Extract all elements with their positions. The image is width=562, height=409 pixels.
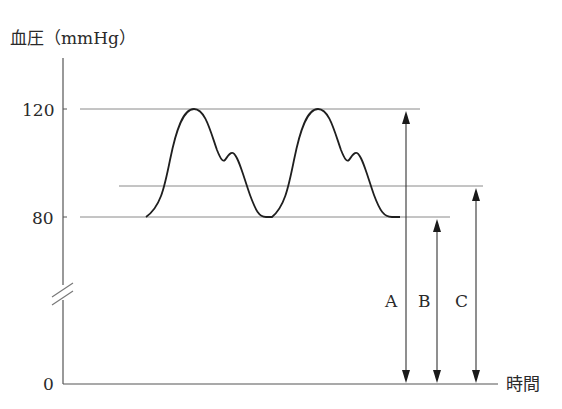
y-tick-80: 80 — [32, 208, 54, 228]
arrow-a — [402, 111, 410, 383]
label-c: C — [455, 291, 468, 311]
label-a: A — [384, 291, 398, 311]
arrow-b — [433, 219, 441, 383]
y-axis-title: 血圧（mmHg） — [10, 28, 136, 48]
y-axis — [63, 58, 67, 384]
y-tick-0: 0 — [43, 374, 54, 394]
label-b: B — [418, 291, 431, 311]
y-tick-120: 120 — [22, 100, 54, 120]
pressure-waveform — [146, 109, 400, 217]
blood-pressure-diagram: 血圧（mmHg） 120 80 0 時間 — [0, 0, 562, 409]
arrow-c — [472, 188, 480, 383]
x-axis-title: 時間 — [506, 374, 540, 394]
